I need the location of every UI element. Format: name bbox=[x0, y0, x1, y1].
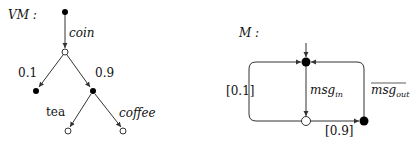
edge-coffee bbox=[95, 94, 121, 127]
vm-diagram: VM : coin 0.1 0.9 tea coffee bbox=[8, 8, 156, 134]
edge-0.9 bbox=[67, 55, 90, 87]
label-msg-out: msgout bbox=[371, 83, 410, 99]
label-coffee: coffee bbox=[119, 106, 156, 120]
label-0.1: 0.1 bbox=[18, 66, 37, 80]
edge-0.1 bbox=[39, 55, 63, 87]
m-node-bottom bbox=[302, 117, 311, 126]
m-node-right bbox=[360, 117, 369, 126]
vm-node-choice bbox=[62, 49, 68, 55]
m-title: M : bbox=[238, 26, 259, 40]
m-diagram: M : [0.1] msgin msgout [0.9] bbox=[226, 26, 410, 138]
vm-node-left-leaf bbox=[33, 88, 39, 94]
label-coin: coin bbox=[69, 26, 95, 40]
vm-node-tea-leaf bbox=[65, 128, 71, 134]
edge-tea bbox=[70, 94, 91, 127]
vm-node-right bbox=[90, 88, 96, 94]
label-0.9: 0.9 bbox=[95, 66, 114, 80]
label-0.1-bracket: [0.1] bbox=[226, 84, 254, 98]
edge-0.1-loop bbox=[249, 62, 302, 121]
vm-node-root bbox=[62, 9, 68, 15]
diagram-canvas: VM : coin 0.1 0.9 tea coffee M : bbox=[0, 0, 415, 145]
vm-node-coffee-leaf bbox=[120, 128, 126, 134]
vm-title: VM : bbox=[8, 8, 37, 22]
m-node-top bbox=[302, 58, 311, 67]
label-msg-in: msgin bbox=[310, 83, 343, 99]
label-tea: tea bbox=[46, 105, 65, 119]
label-0.9-bracket: [0.9] bbox=[325, 124, 353, 138]
